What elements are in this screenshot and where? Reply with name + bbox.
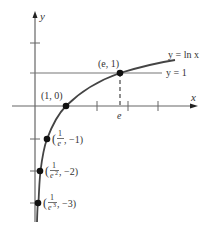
point-inv-e-neg1: [44, 136, 51, 143]
point-e-1: [117, 70, 124, 77]
ln-graph: y x e y = 1 y = ln x (1, 0) (e, 1) ( 1: [0, 0, 208, 231]
point-e-1-label: (e, 1): [98, 58, 119, 70]
y-axis-arrow-icon: [33, 11, 38, 18]
x-axis-label: x: [190, 91, 196, 103]
curve-label: y = ln x: [168, 49, 199, 60]
point-1-0-label: (1, 0): [41, 90, 63, 102]
x-axis-arrow-icon: [190, 104, 198, 109]
point-1-0: [63, 103, 70, 110]
svg-text:, −2): , −2): [59, 166, 78, 178]
y-axis: y: [30, 10, 45, 222]
svg-text:(: (: [52, 132, 56, 146]
svg-text:, −1): , −1): [64, 134, 83, 146]
svg-text:e: e: [48, 203, 52, 212]
e-tick-label: e: [117, 110, 122, 121]
point-inv-e3-neg3: [35, 200, 42, 207]
y-axis-label: y: [39, 10, 45, 22]
svg-text:1: 1: [52, 161, 56, 170]
x-axis: x e: [12, 91, 198, 121]
svg-text:e: e: [50, 171, 54, 180]
svg-text:1: 1: [50, 193, 54, 202]
svg-text:2: 2: [55, 170, 58, 176]
svg-text:3: 3: [53, 202, 56, 208]
svg-text:(: (: [45, 164, 49, 178]
svg-text:, −3): , −3): [57, 198, 76, 210]
svg-text:1: 1: [58, 129, 62, 138]
hline-label: y = 1: [166, 67, 187, 78]
point-inv-e-neg1-label: ( 1 e , −1): [52, 129, 83, 148]
svg-text:e: e: [58, 139, 62, 148]
point-inv-e2-neg2-label: ( 1 e 2 , −2): [45, 161, 78, 180]
svg-text:(: (: [43, 196, 47, 210]
point-inv-e3-neg3-label: ( 1 e 3 , −3): [43, 193, 76, 212]
point-inv-e2-neg2: [37, 168, 44, 175]
